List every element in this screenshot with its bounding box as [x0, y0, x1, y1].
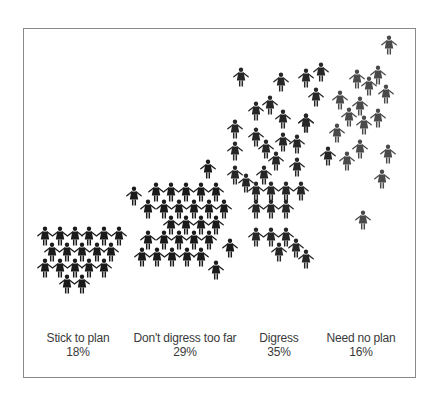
- category-name: Stick to plan: [47, 331, 110, 345]
- person-icon: [97, 227, 111, 246]
- category-percent: 29%: [134, 345, 237, 359]
- person-icon: [299, 250, 313, 269]
- person-icon: [172, 200, 186, 219]
- category-name: Don't digress too far: [134, 331, 237, 345]
- person-icon: [321, 147, 335, 166]
- person-icon: [228, 120, 242, 139]
- person-icon: [82, 227, 96, 246]
- person-icon: [187, 200, 201, 219]
- person-icon: [269, 152, 283, 171]
- person-icon: [209, 183, 223, 202]
- person-icon: [274, 73, 288, 92]
- person-icon: [357, 116, 371, 135]
- person-icon: [141, 200, 155, 219]
- person-icon: [353, 140, 367, 159]
- person-icon: [279, 200, 293, 219]
- person-icon: [127, 187, 141, 206]
- person-icon: [179, 183, 193, 202]
- person-icon: [379, 85, 393, 104]
- person-icon: [165, 248, 179, 267]
- group-stick-to-plan: [38, 227, 126, 294]
- person-icon: [342, 108, 356, 127]
- person-icon: [228, 142, 242, 161]
- label-dont-digress-too-far: Don't digress too far 29%: [134, 331, 237, 359]
- category-percent: 18%: [47, 345, 110, 359]
- person-icon: [249, 228, 263, 247]
- person-icon: [157, 200, 171, 219]
- person-icon: [150, 248, 164, 267]
- person-icon: [201, 160, 215, 179]
- label-stick-to-plan: Stick to plan 18%: [47, 331, 110, 359]
- person-icon: [234, 68, 248, 87]
- person-icon: [276, 110, 290, 129]
- label-need-no-plan: Need no plan 16%: [327, 331, 396, 359]
- person-icon: [202, 200, 216, 219]
- person-icon: [371, 109, 385, 128]
- label-digress: Digress 35%: [259, 331, 298, 359]
- person-icon: [194, 183, 208, 202]
- person-icon: [217, 200, 231, 219]
- person-icon: [340, 152, 354, 171]
- group-digress: [228, 63, 335, 269]
- category-percent: 35%: [259, 345, 298, 359]
- category-percent: 16%: [327, 345, 396, 359]
- person-icon: [279, 182, 293, 201]
- person-icon: [381, 145, 395, 164]
- person-icon: [382, 36, 396, 55]
- person-icon: [333, 91, 347, 110]
- person-icon: [264, 200, 278, 219]
- person-icon: [249, 102, 263, 121]
- person-icon: [38, 227, 52, 246]
- person-icon: [180, 248, 194, 267]
- person-icon: [112, 227, 126, 246]
- person-icon: [68, 227, 82, 246]
- person-icon: [371, 66, 385, 85]
- person-icon: [135, 248, 149, 267]
- person-icon: [309, 88, 323, 107]
- person-icon: [294, 182, 308, 201]
- person-icon: [209, 261, 223, 280]
- group-don-t-digress-too-far: [127, 160, 237, 280]
- person-icon: [314, 63, 328, 82]
- person-icon: [353, 97, 367, 116]
- person-icon: [194, 248, 208, 267]
- person-icon: [290, 135, 304, 154]
- person-icon: [141, 231, 155, 250]
- person-icon: [279, 228, 293, 247]
- person-icon: [249, 128, 263, 147]
- group-need-no-plan: [330, 36, 396, 230]
- person-icon: [356, 211, 370, 230]
- person-icon: [362, 77, 376, 96]
- person-icon: [249, 182, 263, 201]
- person-icon: [299, 114, 313, 133]
- person-icon: [299, 69, 313, 88]
- person-icon: [330, 124, 344, 143]
- category-name: Need no plan: [327, 331, 396, 345]
- person-icon: [223, 239, 237, 258]
- category-name: Digress: [259, 331, 298, 345]
- person-icon: [289, 239, 303, 258]
- person-icon: [249, 200, 263, 219]
- person-icon: [53, 227, 67, 246]
- person-icon: [276, 133, 290, 152]
- person-icon: [290, 158, 304, 177]
- person-icon: [257, 166, 271, 185]
- person-icon: [164, 183, 178, 202]
- person-icon: [263, 96, 277, 115]
- person-icon: [375, 170, 389, 189]
- person-icon: [259, 140, 273, 159]
- person-icon: [149, 183, 163, 202]
- person-icon: [264, 228, 278, 247]
